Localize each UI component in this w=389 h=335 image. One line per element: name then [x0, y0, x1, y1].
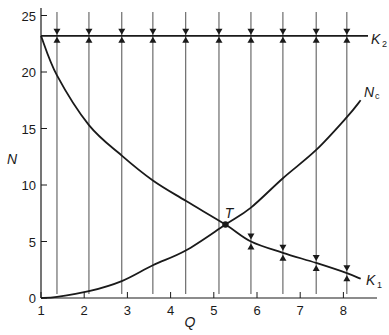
k2-label-main: K — [371, 31, 381, 47]
x-tick-label: 8 — [340, 303, 347, 318]
arrow-down-icon — [279, 29, 286, 35]
x-tick-label: 1 — [37, 303, 44, 318]
curves — [41, 36, 368, 298]
arrow-up-icon — [247, 244, 254, 250]
trajectory-lines — [57, 12, 347, 294]
nc-label-sub: c — [375, 91, 380, 101]
arrow-up-icon — [182, 37, 189, 43]
nc-label-main: N — [364, 84, 375, 100]
arrow-down-icon — [279, 245, 286, 251]
arrow-up-icon — [85, 37, 92, 43]
arrow-up-icon — [53, 37, 60, 43]
arrow-down-icon — [247, 29, 254, 35]
x-tick-label: 2 — [81, 303, 88, 318]
k2-label: K 2 — [371, 31, 387, 49]
arrow-up-icon — [149, 37, 156, 43]
arrow-up-icon — [343, 275, 350, 281]
y-axis-label: N — [7, 151, 18, 167]
arrow-down-icon — [313, 29, 320, 35]
y-tick-label: 15 — [22, 122, 36, 137]
k1-label-sub: 1 — [377, 280, 382, 290]
chart: 051015202512345678 N Q T K 2 K 1 N c — [0, 0, 389, 335]
y-tick-label: 0 — [29, 291, 36, 306]
k2-label-sub: 2 — [382, 39, 387, 49]
k1-label: K 1 — [366, 272, 382, 290]
arrow-down-icon — [343, 29, 350, 35]
y-tick-label: 20 — [22, 65, 36, 80]
arrow-down-icon — [85, 29, 92, 35]
x-tick-label: 6 — [253, 303, 260, 318]
arrow-up-icon — [343, 37, 350, 43]
x-axis-label: Q — [185, 314, 196, 330]
y-tick-label: 5 — [29, 235, 36, 250]
nc-label: N c — [364, 84, 380, 101]
tick-labels: 051015202512345678 — [22, 9, 347, 319]
arrow-down-icon — [182, 29, 189, 35]
y-tick-label: 25 — [22, 9, 36, 24]
x-tick-label: 5 — [210, 303, 217, 318]
x-tick-label: 7 — [297, 303, 304, 318]
arrow-up-icon — [118, 37, 125, 43]
arrow-down-icon — [343, 265, 350, 271]
arrow-markers — [53, 29, 350, 281]
point-t-label: T — [225, 205, 235, 221]
arrow-down-icon — [53, 29, 60, 35]
arrow-up-icon — [313, 37, 320, 43]
y-tick-label: 10 — [22, 178, 36, 193]
arrow-down-icon — [149, 29, 156, 35]
arrow-up-icon — [313, 265, 320, 271]
arrow-down-icon — [215, 29, 222, 35]
axes — [41, 8, 377, 298]
k1-label-main: K — [366, 272, 376, 288]
arrow-up-icon — [247, 37, 254, 43]
arrow-up-icon — [279, 37, 286, 43]
arrow-up-icon — [279, 255, 286, 261]
arrow-down-icon — [118, 29, 125, 35]
x-tick-label: 3 — [124, 303, 131, 318]
arrow-down-icon — [313, 255, 320, 261]
point-t-marker — [222, 221, 228, 227]
arrow-up-icon — [215, 37, 222, 43]
x-tick-label: 4 — [167, 303, 174, 318]
arrow-down-icon — [247, 234, 254, 240]
